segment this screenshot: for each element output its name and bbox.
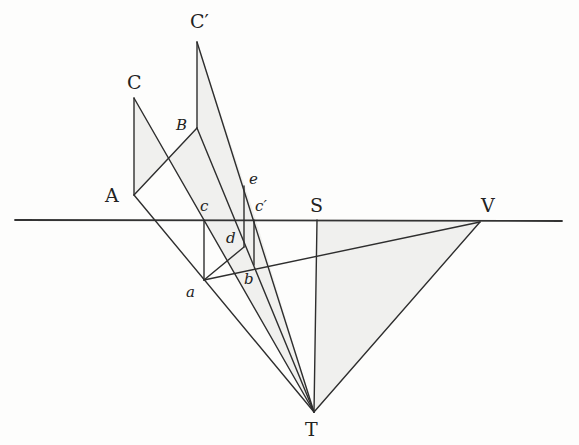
- perspective-diagram: C C′ B A c c′ e d a b S V T: [0, 0, 579, 445]
- label-V: V: [481, 196, 495, 215]
- label-A: A: [105, 186, 119, 205]
- label-d: d: [226, 231, 236, 246]
- label-b: b: [244, 272, 254, 287]
- horizon-line: [15, 220, 562, 221]
- label-S: S: [310, 196, 323, 215]
- label-a: a: [186, 285, 195, 300]
- label-C-prime: C′: [190, 12, 209, 31]
- label-T: T: [305, 420, 318, 439]
- label-c: c: [200, 199, 208, 214]
- label-e: e: [249, 172, 258, 187]
- label-c-prime: c′: [255, 199, 267, 214]
- label-B: B: [176, 118, 187, 133]
- diagram-canvas: [0, 0, 579, 445]
- label-C: C: [127, 73, 142, 92]
